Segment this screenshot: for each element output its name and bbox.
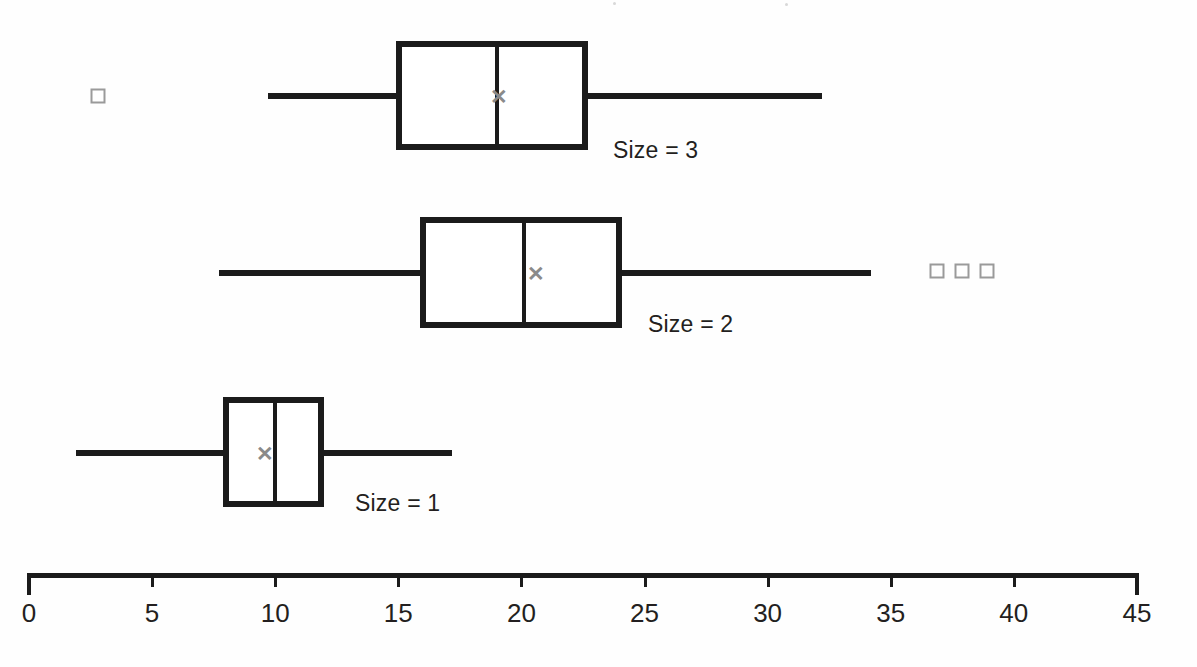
axis-tick-label: 40 — [999, 598, 1028, 629]
axis-tick-label: 25 — [630, 598, 659, 629]
axis-endcap — [1135, 573, 1139, 595]
axis-tick — [644, 573, 647, 587]
axis-tick — [890, 573, 893, 587]
boxplot-figure: ✕Size = 3✕Size = 2✕Size = 1 051015202530… — [0, 0, 1197, 667]
x-axis: 051015202530354045 — [0, 0, 1197, 667]
axis-tick-label: 5 — [145, 598, 159, 629]
axis-tick-label: 35 — [876, 598, 905, 629]
axis-endcap — [27, 573, 31, 595]
axis-tick — [274, 573, 277, 587]
axis-tick-label: 20 — [507, 598, 536, 629]
axis-tick — [767, 573, 770, 587]
axis-tick — [520, 573, 523, 587]
axis-tick-label: 30 — [753, 598, 782, 629]
axis-tick-label: 15 — [384, 598, 413, 629]
axis-tick-label: 45 — [1122, 598, 1151, 629]
axis-tick — [151, 573, 154, 587]
axis-tick-label: 10 — [261, 598, 290, 629]
axis-tick — [397, 573, 400, 587]
axis-line — [29, 573, 1137, 578]
axis-tick — [1013, 573, 1016, 587]
axis-tick-label: 0 — [22, 598, 36, 629]
